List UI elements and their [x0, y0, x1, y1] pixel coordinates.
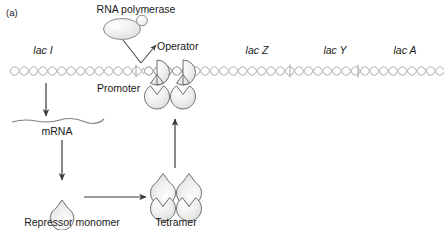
- tetramer-bound-subunit-top-right: [177, 60, 196, 85]
- tetramer-label: Tetramer: [155, 217, 196, 228]
- dna-strand-lower-right: [191, 67, 444, 76]
- repressor-monomer-label: Repressor monomer: [24, 217, 120, 228]
- tetramer-bound-subunit-top-left: [151, 60, 170, 85]
- tetramer-bound-subunit-bottom-right: [171, 86, 196, 109]
- panel-label: (a): [6, 8, 18, 18]
- polymerase-pointer-leg-up: [141, 45, 156, 63]
- rna-polymerase-label: RNA polymerase: [97, 4, 176, 15]
- rna-polymerase-highlight: [108, 21, 124, 29]
- polymerase-pointer-leg-down: [123, 40, 141, 63]
- gene-label-lac-y: lac Y: [323, 45, 346, 56]
- gene-label-lac-z: lac Z: [246, 45, 269, 56]
- tetramer-bound-subunit-bottom-left: [145, 86, 170, 109]
- rna-polymerase-molecule: [104, 15, 148, 39]
- lac-operon-figure: (a) RNA polymerase Operator Promoter lac…: [0, 0, 444, 230]
- mrna-label: mRNA: [42, 126, 73, 137]
- operator-label: Operator: [157, 41, 198, 52]
- rna-polymerase-subunit-icon: [137, 15, 148, 26]
- free-tetramer: [150, 174, 201, 221]
- promoter-label: Promoter: [97, 83, 140, 94]
- mrna-transcript-icon: [12, 119, 104, 124]
- gene-label-lac-a: lac A: [394, 45, 417, 56]
- diagram-canvas: [0, 0, 444, 230]
- dna-strand: [10, 65, 444, 78]
- rna-polymerase-core-icon: [104, 19, 141, 40]
- gene-label-lac-i: lac I: [33, 45, 52, 56]
- polymerase-pointer: [123, 40, 156, 63]
